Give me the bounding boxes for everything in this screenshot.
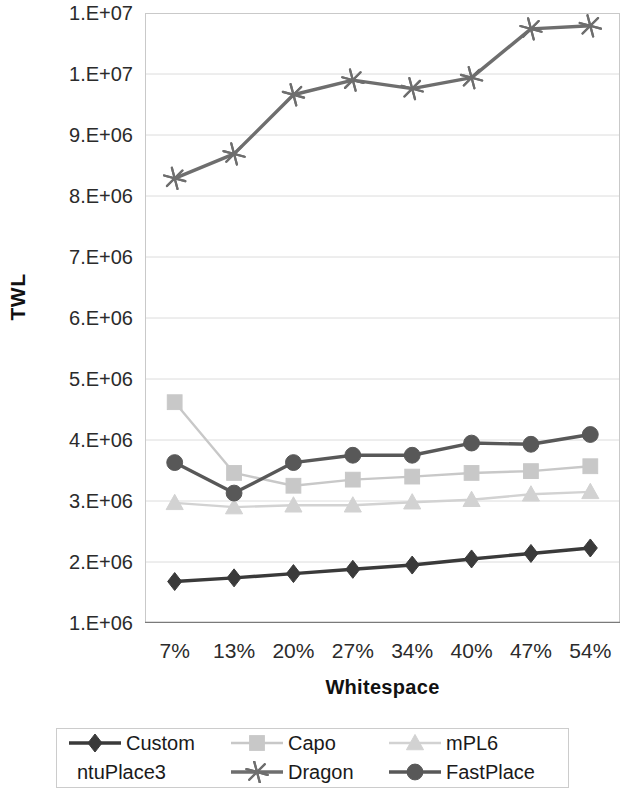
legend-label: mPL6 xyxy=(446,733,498,753)
data-point-marker xyxy=(167,171,183,187)
legend-item-fastplace[interactable]: FastPlace xyxy=(387,761,535,783)
legend-row: ntuPlace3DragonFastPlace xyxy=(57,758,568,788)
data-point-marker xyxy=(286,565,300,583)
chart-container: TWL 1.E+071.E+079.E+068.E+067.E+066.E+06… xyxy=(0,0,625,793)
x-axis-title: Whitespace xyxy=(145,676,620,699)
legend-item-ntuplace3[interactable]: ntuPlace3 xyxy=(77,761,225,783)
x-tick-label: 34% xyxy=(382,640,442,661)
y-tick-label: 1.E+06 xyxy=(28,613,133,633)
data-point-marker xyxy=(583,539,597,557)
y-tick-label: 8.E+06 xyxy=(28,186,133,206)
legend-marker-diamond-icon xyxy=(67,732,123,754)
y-tick-label: 9.E+06 xyxy=(28,125,133,145)
data-point-marker xyxy=(582,427,598,443)
data-point-marker xyxy=(405,469,420,484)
legend-label: FastPlace xyxy=(446,762,535,782)
series-dragon xyxy=(164,15,601,189)
data-point-marker xyxy=(227,569,241,587)
y-tick-label: 1.E+07 xyxy=(28,64,133,84)
y-tick-label: 5.E+06 xyxy=(28,369,133,389)
chart-svg xyxy=(145,13,620,623)
x-tick-label: 47% xyxy=(501,640,561,661)
x-tick-label: 27% xyxy=(323,640,383,661)
data-point-marker xyxy=(346,560,360,578)
data-point-marker xyxy=(523,436,539,452)
data-point-marker xyxy=(286,478,301,493)
legend-item-mpl6[interactable]: mPL6 xyxy=(387,732,498,754)
y-tick-label: 7.E+06 xyxy=(28,247,133,267)
legend-label: Capo xyxy=(288,733,336,753)
data-point-marker xyxy=(524,544,538,562)
legend-row: CustomCapomPL6 xyxy=(57,729,568,759)
data-point-marker xyxy=(166,494,183,509)
y-tick-label: 2.E+06 xyxy=(28,552,133,572)
legend-marker-asterisk-icon xyxy=(229,761,285,783)
data-point-marker xyxy=(345,472,360,487)
legend-marker-circle-icon xyxy=(387,761,443,783)
y-axis-tick-labels: 1.E+071.E+079.E+068.E+067.E+066.E+065.E+… xyxy=(28,0,133,640)
chart-legend: CustomCapomPL6 ntuPlace3DragonFastPlace xyxy=(56,728,569,788)
y-tick-label: 6.E+06 xyxy=(28,308,133,328)
data-point-marker xyxy=(404,447,420,463)
plot-area xyxy=(145,13,620,623)
data-point-marker xyxy=(226,146,242,162)
data-point-marker xyxy=(250,736,265,751)
legend-marker-square-icon xyxy=(229,732,285,754)
legend-item-capo[interactable]: Capo xyxy=(229,732,336,754)
series-custom xyxy=(168,539,598,591)
x-tick-label: 40% xyxy=(442,640,502,661)
x-tick-label: 7% xyxy=(145,640,205,661)
x-tick-label: 20% xyxy=(263,640,323,661)
legend-item-custom[interactable]: Custom xyxy=(67,732,195,754)
x-tick-label: 13% xyxy=(204,640,264,661)
legend-label: ntuPlace3 xyxy=(77,762,166,782)
x-tick-label: 54% xyxy=(560,640,620,661)
data-point-marker xyxy=(345,447,361,463)
y-axis-title: TWL xyxy=(6,257,30,337)
data-point-marker xyxy=(407,764,423,780)
data-point-marker xyxy=(167,395,182,410)
data-point-marker xyxy=(524,464,539,479)
data-point-marker xyxy=(168,573,182,591)
data-point-marker xyxy=(167,455,183,471)
legend-marker-triangle-icon xyxy=(387,732,443,754)
data-point-marker xyxy=(88,734,102,752)
data-point-marker xyxy=(286,455,302,471)
y-tick-label: 3.E+06 xyxy=(28,491,133,511)
legend-marker-none xyxy=(166,761,222,783)
data-point-marker xyxy=(405,556,419,574)
data-point-marker xyxy=(227,466,242,481)
legend-label: Custom xyxy=(126,733,195,753)
data-point-marker xyxy=(464,466,479,481)
y-tick-label: 1.E+07 xyxy=(28,3,133,23)
data-point-marker xyxy=(464,435,480,451)
legend-label: Dragon xyxy=(288,762,354,782)
data-point-marker xyxy=(583,459,598,474)
data-point-marker xyxy=(465,550,479,568)
data-point-marker xyxy=(226,485,242,501)
y-tick-label: 4.E+06 xyxy=(28,430,133,450)
legend-item-dragon[interactable]: Dragon xyxy=(229,761,354,783)
